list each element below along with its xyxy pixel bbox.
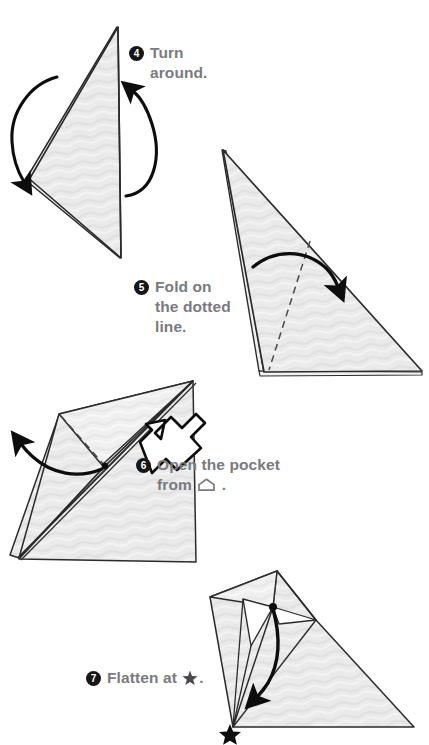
step-4-badge: 4 bbox=[129, 46, 144, 61]
step-7-text: Flatten at . bbox=[107, 668, 204, 690]
step-6-text-after: . bbox=[217, 476, 226, 493]
star-symbol bbox=[182, 670, 198, 690]
diagram-step-7 bbox=[210, 571, 414, 745]
step-4-caption: 4 Turn around. bbox=[129, 43, 259, 83]
step-5-caption: 5 Fold on the dotted line. bbox=[134, 277, 254, 337]
step-6-caption: 6 Open the pocket from . bbox=[136, 455, 326, 497]
step-6-text: Open the pocket from . bbox=[157, 455, 280, 497]
step-5-text: Fold on the dotted line. bbox=[155, 277, 231, 337]
step-6-badge: 6 bbox=[136, 458, 151, 473]
step4-front-face bbox=[30, 27, 122, 258]
diagram-step-5 bbox=[222, 150, 422, 376]
curved-arrow-right-up bbox=[126, 91, 156, 196]
step-7-badge: 7 bbox=[86, 671, 101, 686]
step-5-badge: 5 bbox=[134, 280, 149, 295]
step5-front-face bbox=[223, 150, 422, 372]
step-4-text: Turn around. bbox=[150, 43, 208, 83]
step-7-caption: 7 Flatten at . bbox=[86, 668, 266, 690]
step-7-text-after: . bbox=[199, 669, 203, 686]
instruction-sheet bbox=[0, 0, 429, 745]
step-7-text-before: Flatten at bbox=[107, 669, 181, 686]
pocket-house-symbol bbox=[197, 477, 216, 497]
